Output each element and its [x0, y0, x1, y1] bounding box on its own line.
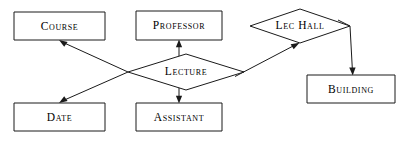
entity-professor-label: Professor: [153, 19, 205, 31]
relationship-lec-hall[interactable]: Lec Hall: [250, 9, 350, 43]
arrowhead-assistant: [176, 96, 182, 104]
entity-date-label: Date: [47, 111, 72, 123]
entity-assistant-label: Assistant: [154, 111, 204, 123]
relationship-lec-hall-label: Lec Hall: [276, 19, 325, 31]
arrowhead-lec-hall: [291, 43, 300, 50]
entity-assistant[interactable]: Assistant: [136, 103, 222, 131]
arrowhead-course: [59, 40, 68, 47]
connector-lecture-to-course: [59, 40, 128, 72]
connector-lecture-to-date: [59, 72, 128, 103]
entity-professor[interactable]: Professor: [136, 11, 222, 40]
er-diagram-svg: Course Professor Date Assistant Building…: [0, 0, 414, 142]
arrowhead-professor: [176, 40, 182, 48]
relationship-lecture-label: Lecture: [165, 65, 207, 77]
arrowhead-date: [59, 96, 68, 103]
entity-course-label: Course: [41, 20, 79, 32]
relationship-lecture[interactable]: Lecture: [128, 54, 244, 90]
connector-lecture-to-lec-hall: [235, 43, 300, 77]
connector-line: [61, 42, 128, 73]
entity-course[interactable]: Course: [14, 12, 105, 40]
arrowhead-building: [349, 67, 355, 75]
entity-building-label: Building: [328, 83, 374, 95]
entity-date[interactable]: Date: [14, 103, 105, 131]
entity-building[interactable]: Building: [307, 75, 395, 103]
connector-line: [61, 72, 128, 102]
er-diagram-canvas: Course Professor Date Assistant Building…: [0, 0, 414, 142]
